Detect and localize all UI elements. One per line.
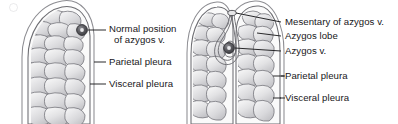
azygos-vein-lumen [80,28,84,32]
label-normal-position-line2: of azygos v. [114,34,165,45]
main-lung-texture [237,11,274,121]
label-normal-position-line1: Normal position [109,23,176,34]
panel-normal-lung: Normal position of azygos v. Parietal pl… [0,0,199,124]
label-visceral-pleura-right: Visceral pleura [285,92,349,103]
azygos-vein-lumen [227,46,231,50]
label-visceral-pleura-left: Visceral pleura [109,78,173,89]
label-parietal-pleura-left: Parietal pleura [109,56,172,67]
label-mesentary-of-azygos: Mesentary of azygos v. [285,16,384,27]
azygos-mesentery-neck [228,10,236,15]
label-azygos-vein: Azygos v. [285,45,326,56]
panel-azygos-lobe-lung: Mesentary of azygos v. Azygos lobe Azygo… [185,0,398,124]
figure-canvas: Normal position of azygos v. Parietal pl… [0,0,398,124]
label-azygos-lobe: Azygos lobe [285,30,338,41]
label-parietal-pleura-right: Parietal pleura [285,70,348,81]
lung-lobule-texture [26,10,85,124]
